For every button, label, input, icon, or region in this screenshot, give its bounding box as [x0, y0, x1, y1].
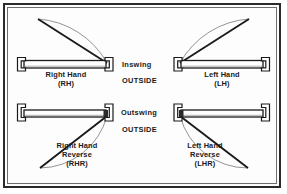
label-inswing: Inswing: [122, 60, 166, 69]
label-left-hand-line-2: (LH): [188, 79, 256, 88]
swing-line-lh: [180, 19, 249, 63]
label-right-hand-reverse-line-3: (RHR): [46, 159, 108, 168]
door-handing-diagram: Right Hand (RH) Left Hand (LH) Right Han…: [0, 0, 287, 194]
door-panel-rh: [24, 61, 106, 69]
quadrant-right-hand: [18, 19, 114, 71]
label-right-hand-line-2: (RH): [32, 79, 100, 88]
hinge-marker-lhr: [179, 110, 184, 117]
door-panel-lhr: [181, 110, 263, 117]
label-right-hand-reverse: Right Hand Reverse (RHR): [46, 141, 108, 169]
label-outswing: Outswing: [121, 108, 169, 117]
label-right-hand-reverse-line-2: Reverse: [46, 150, 108, 159]
door-panel-rhr: [24, 110, 106, 117]
door-panel-lh: [181, 61, 263, 69]
quadrant-left-hand: [174, 19, 270, 71]
label-left-hand-line-1: Left Hand: [188, 70, 256, 79]
label-inswing-outside: OUTSIDE: [122, 76, 168, 85]
diagram-canvas: [0, 0, 287, 194]
label-left-hand-reverse-line-1: Left Hand: [174, 141, 236, 150]
label-right-hand-reverse-line-1: Right Hand: [46, 141, 108, 150]
label-left-hand: Left Hand (LH): [188, 70, 256, 88]
label-right-hand: Right Hand (RH): [32, 70, 100, 88]
label-right-hand-line-1: Right Hand: [32, 70, 100, 79]
hinge-marker-rhr: [104, 110, 109, 117]
label-left-hand-reverse-line-3: (LHR): [174, 159, 236, 168]
label-left-hand-reverse-line-2: Reverse: [174, 150, 236, 159]
label-outswing-outside: OUTSIDE: [122, 125, 168, 134]
label-left-hand-reverse: Left Hand Reverse (LHR): [174, 141, 236, 169]
swing-line-rh: [38, 19, 107, 63]
